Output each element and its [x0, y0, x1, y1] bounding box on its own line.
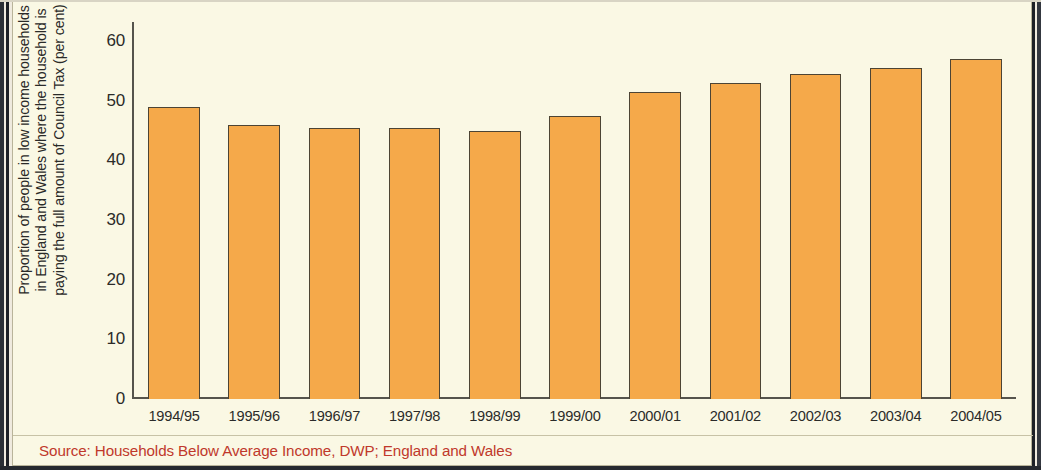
y-axis-tick-0: 0 [116, 389, 125, 409]
bar-2000-01 [629, 92, 681, 399]
x-axis-tick-2001-02: 2001/02 [695, 408, 775, 424]
figure-root: Proportion of people in low income house… [0, 0, 1041, 470]
bar-2001-02 [710, 83, 762, 399]
x-axis-tick-labels: 1994/951995/961996/971997/981998/991999/… [134, 408, 1016, 432]
page-edge-left [6, 0, 9, 470]
page-edge-outer-left [0, 0, 4, 470]
x-axis-tick-1998-99: 1998/99 [455, 408, 535, 424]
bar-2004-05 [950, 59, 1002, 399]
bar-slot [710, 2, 762, 399]
bar-1997-98 [389, 128, 441, 399]
bar-1998-99 [469, 131, 521, 400]
bar-2003-04 [870, 68, 922, 399]
x-axis-tick-2000-01: 2000/01 [615, 408, 695, 424]
bar-slot [629, 2, 681, 399]
y-axis-tick-20: 20 [106, 270, 125, 290]
x-axis-tick-2002-03: 2002/03 [775, 408, 855, 424]
x-axis-tick-1995-96: 1995/96 [214, 408, 294, 424]
bar-slot [148, 2, 200, 399]
page-edge-bottom [0, 466, 1041, 470]
bar-slot [469, 2, 521, 399]
bar-1999-00 [549, 116, 601, 399]
x-axis-tick-1994-95: 1994/95 [134, 408, 214, 424]
x-axis-tick-2003-04: 2003/04 [856, 408, 936, 424]
bar-1995-96 [228, 125, 280, 399]
x-axis-tick-2004-05: 2004/05 [936, 408, 1016, 424]
bar-slot [870, 2, 922, 399]
bar-slot [389, 2, 441, 399]
page-edge-outer-right [1037, 0, 1041, 470]
y-axis-tick-labels: 0102030405060 [85, 2, 125, 406]
plot-area: Proportion of people in low income house… [13, 2, 1033, 406]
bar-slot [549, 2, 601, 399]
bar-slot [228, 2, 280, 399]
source-divider [13, 435, 1033, 436]
y-axis-tick-40: 40 [106, 150, 125, 170]
bar-1994-95 [148, 107, 200, 399]
y-axis-tick-10: 10 [106, 329, 125, 349]
x-axis-tick-1999-00: 1999/00 [535, 408, 615, 424]
source-note: Source: Households Below Average Income,… [39, 442, 512, 459]
y-axis-tick-60: 60 [106, 31, 125, 51]
y-axis-tick-30: 30 [106, 210, 125, 230]
bar-slot [950, 2, 1002, 399]
bar-slot [790, 2, 842, 399]
y-axis-title: Proportion of people in low income house… [13, 0, 71, 345]
bars-layer [134, 2, 1016, 399]
y-axis-tick-50: 50 [106, 91, 125, 111]
chart-card: Proportion of people in low income house… [12, 2, 1032, 466]
x-axis-tick-1997-98: 1997/98 [375, 408, 455, 424]
bar-slot [309, 2, 361, 399]
x-axis-tick-1996-97: 1996/97 [294, 408, 374, 424]
bar-1996-97 [309, 128, 361, 399]
bar-2002-03 [790, 74, 842, 399]
